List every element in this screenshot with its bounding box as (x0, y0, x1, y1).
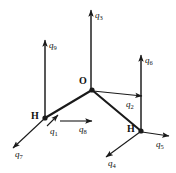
vector-label-q3: q3 (95, 11, 103, 20)
atom-node-o (89, 87, 94, 92)
diagram-canvas (0, 0, 176, 173)
vector-label-q4-symbol: q (108, 158, 113, 168)
vector-label-q7-index: 7 (20, 153, 23, 160)
vector-label-q4: q4 (108, 159, 116, 168)
vector-arrow-q2 (93, 91, 142, 96)
vector-arrow-q7 (13, 119, 44, 148)
vector-label-q9: q9 (49, 41, 57, 50)
vector-label-q5-index: 5 (161, 143, 164, 150)
vector-label-q6-symbol: q (145, 55, 150, 65)
atom-node-h2 (138, 128, 143, 133)
vectors-group (13, 10, 169, 157)
vector-label-q7: q7 (15, 150, 23, 159)
vector-label-q5-symbol: q (156, 139, 161, 149)
vector-label-q2: q2 (126, 100, 134, 109)
vector-label-q4-index: 4 (113, 162, 116, 169)
guide-lines-group (45, 16, 141, 131)
vector-label-q6: q6 (145, 56, 153, 65)
vector-label-q8-index: 8 (84, 128, 87, 135)
vector-label-q1-symbol: q (50, 126, 55, 136)
vector-label-q2-symbol: q (126, 99, 131, 109)
vector-label-q3-index: 3 (100, 14, 103, 21)
vector-label-q3-symbol: q (95, 10, 100, 20)
atom-node-h1 (42, 115, 47, 120)
vector-label-q9-symbol: q (49, 40, 54, 50)
vector-label-q6-index: 6 (150, 59, 153, 66)
vector-arrow-q5 (142, 132, 169, 136)
vector-label-q2-index: 2 (131, 103, 134, 110)
vector-diagram: O H H q1 q2 q3 q4 q5 q6 q7 q8 q9 (0, 0, 176, 173)
vector-label-q9-index: 9 (54, 44, 57, 51)
vector-label-q5: q5 (156, 140, 164, 149)
atom-label-h1: H (31, 111, 39, 121)
vector-label-q8: q8 (79, 125, 87, 134)
vector-label-q1-index: 1 (55, 130, 58, 137)
vector-label-q8-symbol: q (79, 124, 84, 134)
bond-o-h1 (45, 90, 92, 118)
vector-label-q1: q1 (50, 127, 58, 136)
atom-label-o: O (79, 76, 87, 86)
atom-label-h2: H (127, 124, 135, 134)
vector-label-q7-symbol: q (15, 149, 20, 159)
vector-arrow-q4 (106, 132, 140, 157)
